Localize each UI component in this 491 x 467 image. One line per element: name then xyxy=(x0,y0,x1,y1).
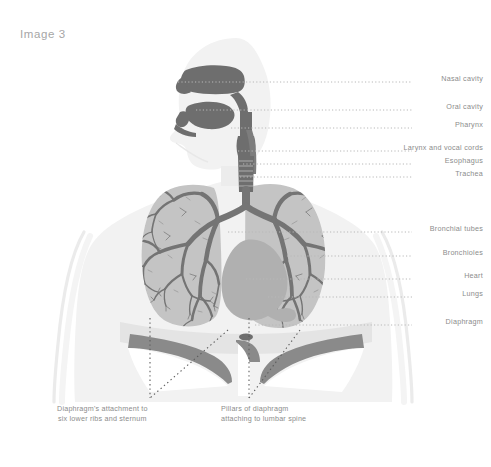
annotation-label-bronchioles: Bronchioles xyxy=(443,248,483,257)
callout-line-1: Diaphragm's attachment to xyxy=(57,404,148,414)
annotation-label-lungs: Lungs xyxy=(462,289,483,298)
callout-pillars-of-diaphragm: Pillars of diaphragm attaching to lumbar… xyxy=(221,404,306,425)
callout-line-2: attaching to lumbar spine xyxy=(221,414,306,424)
annotation-label-pharynx: Pharynx xyxy=(455,120,483,129)
annotation-label-larynx-and-vocal-cords: Larynx and vocal cords xyxy=(404,143,483,152)
anatomy-figure: Image 3 Nasal cavityOral cavityPharynxLa… xyxy=(0,0,491,467)
annotation-label-esophagus: Esophagus xyxy=(445,156,483,165)
callout-line-1: Pillars of diaphragm xyxy=(221,404,306,414)
callout-diaphragm-attachment: Diaphragm's attachment to six lower ribs… xyxy=(57,404,148,425)
annotation-label-nasal-cavity: Nasal cavity xyxy=(441,74,483,83)
annotation-label-trachea: Trachea xyxy=(455,169,483,178)
image-caption: Image 3 xyxy=(20,28,66,40)
annotation-label-bronchial-tubes: Bronchial tubes xyxy=(430,224,483,233)
annotation-label-diaphragm: Diaphragm xyxy=(446,317,483,326)
annotation-label-oral-cavity: Oral cavity xyxy=(446,102,483,111)
respiratory-system-illustration xyxy=(0,0,491,467)
callout-line-2: six lower ribs and sternum xyxy=(57,414,148,424)
annotation-label-heart: Heart xyxy=(464,271,483,280)
